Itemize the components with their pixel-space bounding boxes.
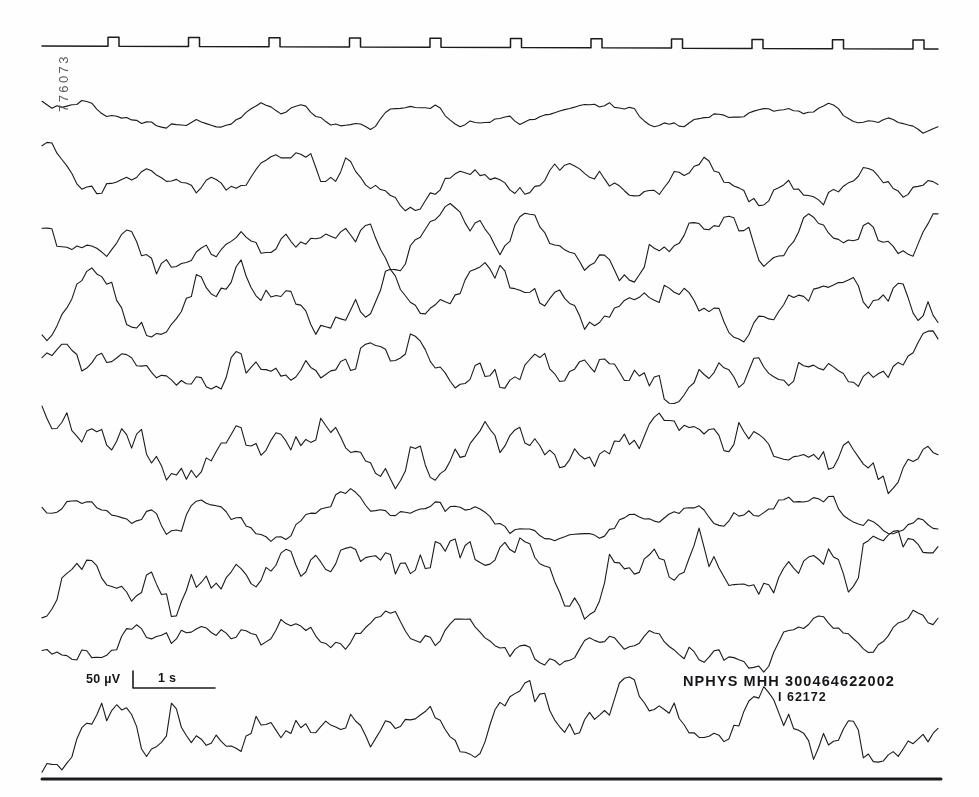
eeg-chart-page: 776073 50 µV 1 s NPHYS MHH 300464622002 …	[0, 0, 979, 797]
scale-bar-time-label: 1 s	[158, 671, 176, 685]
scale-bar-amplitude-label: 50 µV	[86, 672, 120, 686]
recording-id-vertical-label: 776073	[56, 54, 71, 112]
record-identifier-secondary: I 62172	[778, 690, 827, 704]
record-identifier-primary: NPHYS MHH 300464622002	[683, 673, 895, 689]
